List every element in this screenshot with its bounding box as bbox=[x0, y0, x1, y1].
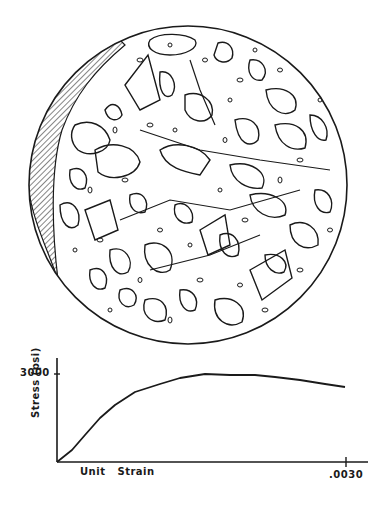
crack-lines bbox=[120, 60, 330, 270]
figure-svg bbox=[0, 0, 388, 509]
stress-strain-curve bbox=[57, 374, 345, 462]
x-axis-label: Unit Strain bbox=[80, 466, 155, 477]
stress-strain-chart bbox=[54, 358, 368, 467]
concrete-cross-section bbox=[28, 26, 347, 344]
x-tick-label: .0030 bbox=[329, 469, 363, 480]
y-axis-label: Stress (psi) bbox=[30, 347, 41, 418]
spalled-region-hatch bbox=[28, 40, 125, 280]
figure: 3000 Stress (psi) Unit Strain .0030 bbox=[0, 0, 388, 509]
fine-aggregate-specks bbox=[73, 43, 333, 323]
